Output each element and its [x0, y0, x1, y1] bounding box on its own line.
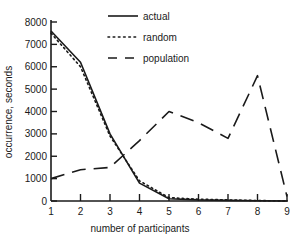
axes: 0100020003000400050006000700080001234567…	[25, 17, 290, 218]
y-axis-label: occurrence, seconds	[3, 66, 14, 158]
y-tick-label: 6000	[25, 61, 48, 72]
y-tick-label: 8000	[25, 17, 48, 28]
y-tick-label: 7000	[25, 39, 48, 50]
y-tick-label: 4000	[25, 106, 48, 117]
legend-label-random: random	[143, 32, 177, 43]
x-tick-label: 1	[48, 206, 54, 217]
x-tick-label: 7	[225, 206, 231, 217]
y-tick-label: 2000	[25, 151, 48, 162]
x-tick-label: 3	[107, 206, 113, 217]
legend: actualrandompopulation	[108, 11, 189, 64]
y-tick-label: 5000	[25, 84, 48, 95]
legend-label-population: population	[143, 53, 189, 64]
line-chart: 0100020003000400050006000700080001234567…	[0, 0, 301, 239]
x-tick-label: 6	[196, 206, 202, 217]
legend-label-actual: actual	[143, 11, 170, 22]
y-tick-label: 1000	[25, 173, 48, 184]
y-tick-label: 0	[41, 196, 47, 207]
x-tick-label: 2	[78, 206, 84, 217]
x-tick-label: 4	[137, 206, 143, 217]
x-tick-label: 9	[284, 206, 290, 217]
x-tick-label: 5	[166, 206, 172, 217]
y-tick-label: 3000	[25, 128, 48, 139]
series-population-line	[51, 76, 287, 197]
x-tick-label: 8	[255, 206, 261, 217]
x-axis-label: number of participants	[91, 223, 190, 234]
